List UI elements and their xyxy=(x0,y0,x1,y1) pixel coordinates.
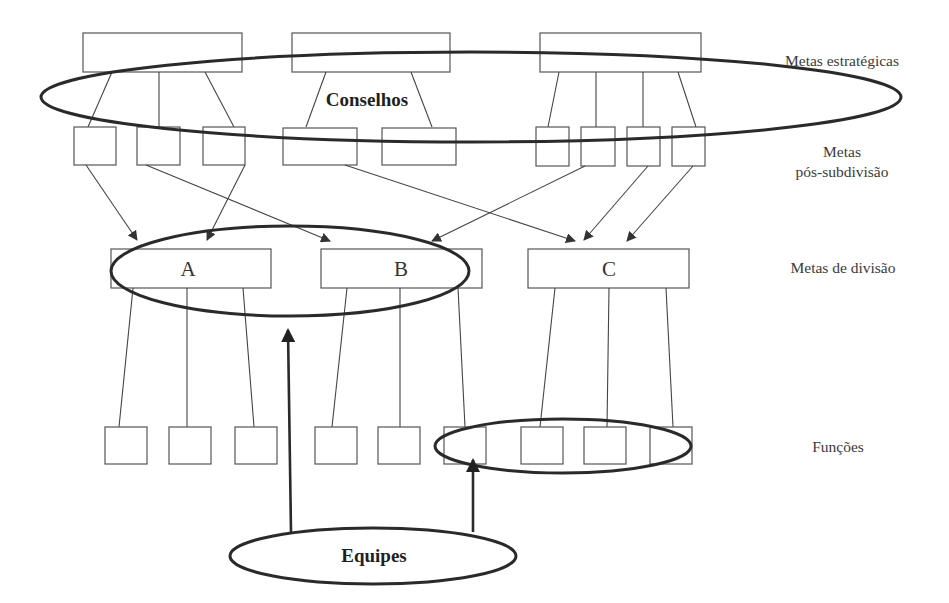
level-label-post-subdivision-line2: pós-subdivisão xyxy=(796,163,889,180)
level-label-strategic: Metas estratégicas xyxy=(785,52,899,69)
function-box-2 xyxy=(169,427,211,464)
level-label-functions: Funções xyxy=(812,438,864,455)
level-label-division: Metas de divisão xyxy=(790,259,895,276)
level-label-post-subdivision-line1: Metas xyxy=(823,143,861,160)
functions-row xyxy=(105,427,692,464)
team-arrow-to-divisions xyxy=(288,330,291,532)
post-subdivision-goal-box-9 xyxy=(672,127,705,166)
division-goals-row: A B C xyxy=(111,249,689,288)
function-box-7 xyxy=(521,427,563,464)
function-box-1 xyxy=(105,427,147,464)
goal-cascade-diagram: Conselhos A B C xyxy=(0,0,949,603)
function-box-3 xyxy=(235,427,277,464)
councils-oval xyxy=(41,52,901,142)
post-subdivision-goal-box-6 xyxy=(536,127,569,166)
post-subdivision-goal-box-5 xyxy=(382,128,456,165)
division-goal-label-a: A xyxy=(180,257,196,281)
post-subdivision-goal-box-2 xyxy=(137,127,180,165)
post-subdivision-goal-box-8 xyxy=(627,127,660,166)
function-box-4 xyxy=(315,427,357,464)
post-subdivision-goal-box-1 xyxy=(74,127,116,165)
post-subdivision-goals-row xyxy=(74,127,705,166)
division-goal-label-b: B xyxy=(394,257,408,281)
post-subdivision-goal-box-4 xyxy=(283,128,357,165)
function-box-8 xyxy=(584,427,626,464)
level-labels: Metas estratégicas Metas pós-subdivisão … xyxy=(785,52,899,455)
division-goal-label-c: C xyxy=(602,257,616,281)
teams-label: Equipes xyxy=(341,545,406,566)
cascade-arrows xyxy=(86,165,693,241)
councils-label: Conselhos xyxy=(326,89,408,110)
post-subdivision-goal-box-7 xyxy=(581,127,615,166)
function-box-5 xyxy=(378,427,420,464)
